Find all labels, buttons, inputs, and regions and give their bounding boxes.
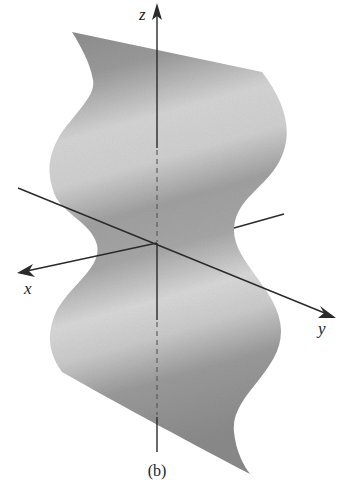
z-axis-label: z xyxy=(138,5,146,24)
x-axis-negative xyxy=(234,214,284,228)
x-axis-label: x xyxy=(23,279,32,298)
surface-diagram: z x y (b) xyxy=(0,0,342,485)
cylindrical-surface xyxy=(49,32,286,474)
y-axis-label: y xyxy=(316,319,326,338)
figure-caption: (b) xyxy=(148,462,167,480)
